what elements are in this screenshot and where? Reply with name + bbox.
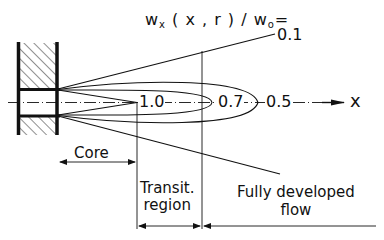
transition-line-1: Transit. xyxy=(140,180,194,197)
title-w: w xyxy=(145,10,159,29)
developed-line-2: flow xyxy=(237,201,355,219)
title-args: ( x , r ) / w xyxy=(166,10,268,29)
contour-label-0-5: 0.5 xyxy=(265,94,292,110)
contour-label-0-1: 0.1 xyxy=(277,27,302,43)
developed-flow-label: Fully developed flow xyxy=(237,183,355,219)
transition-line-2: region xyxy=(140,197,194,214)
title-sub-x: x xyxy=(159,19,166,30)
x-axis-label: x xyxy=(350,92,361,110)
title-sub-o: o xyxy=(268,19,275,30)
velocity-ratio-title: wx ( x , r ) / wo= xyxy=(145,12,289,30)
nozzle-wall xyxy=(18,42,60,135)
transition-region-label: Transit. region xyxy=(140,180,194,214)
core-region-label: Core xyxy=(74,146,109,161)
developed-line-1: Fully developed xyxy=(237,183,355,201)
contour-label-1-0: 1.0 xyxy=(138,94,165,110)
contour-label-0-7: 0.7 xyxy=(217,94,244,110)
